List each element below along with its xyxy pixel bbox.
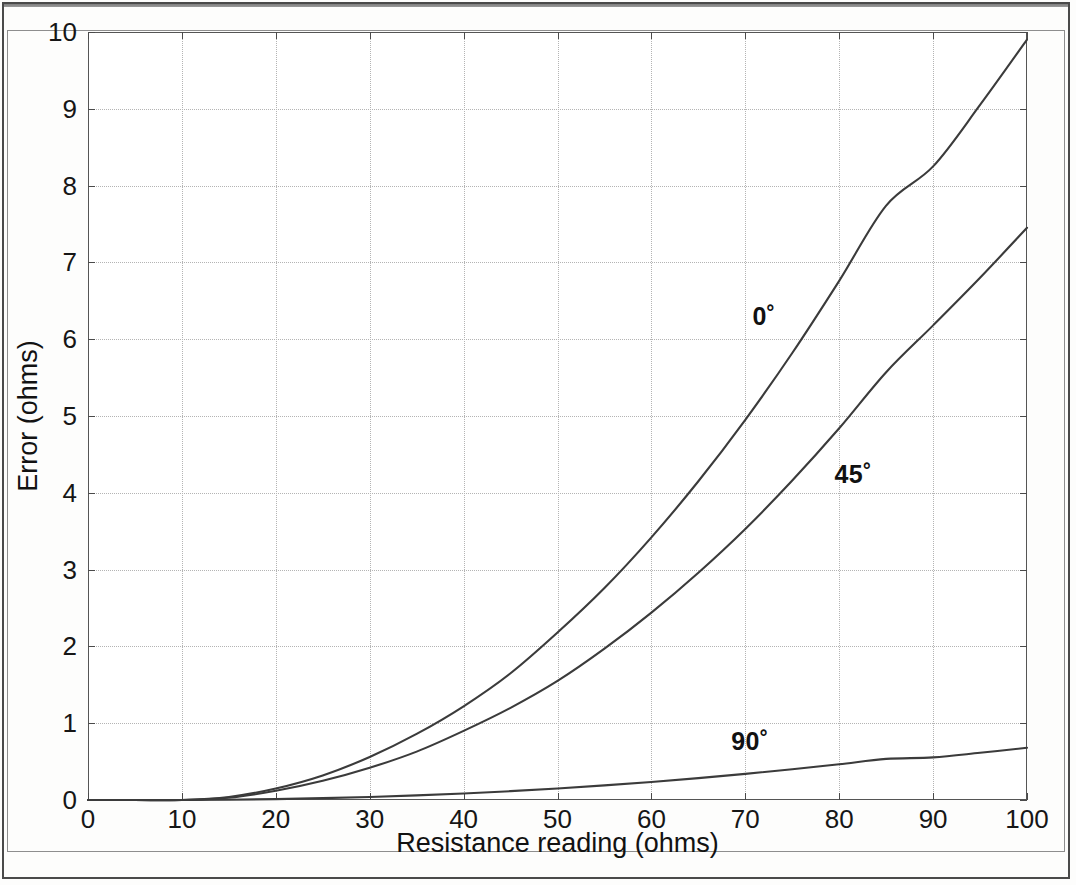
x-axis-tick — [1027, 793, 1028, 800]
figure-page: 0102030405060708090100 012345678910 0˚45… — [0, 0, 1076, 885]
y-tick-label: 2 — [63, 631, 77, 662]
y-tick-label: 10 — [48, 17, 77, 48]
series-line-45 — [88, 228, 1027, 800]
series-line-0 — [88, 40, 1027, 801]
curve-label-90: 90˚ — [731, 726, 769, 755]
curve-label-45: 45˚ — [834, 459, 872, 488]
curve-label-0: 0˚ — [752, 302, 775, 331]
y-tick-label: 0 — [63, 785, 77, 816]
y-axis-label: Error (ohms) — [13, 340, 44, 492]
y-tick-label: 1 — [63, 708, 77, 739]
y-tick-label: 6 — [63, 324, 77, 355]
y-tick-label: 4 — [63, 477, 77, 508]
y-tick-label: 7 — [63, 247, 77, 278]
x-axis-label: Resistance reading (ohms) — [88, 828, 1027, 859]
x-axis-tick — [1027, 32, 1028, 39]
curve-layer — [88, 32, 1027, 800]
y-axis-tick — [1020, 800, 1027, 801]
y-tick-label: 9 — [63, 93, 77, 124]
y-tick-label: 5 — [63, 401, 77, 432]
y-tick-label: 8 — [63, 170, 77, 201]
line-chart: 0102030405060708090100 012345678910 0˚45… — [88, 32, 1027, 800]
series-line-90 — [88, 748, 1027, 800]
y-tick-label: 3 — [63, 554, 77, 585]
